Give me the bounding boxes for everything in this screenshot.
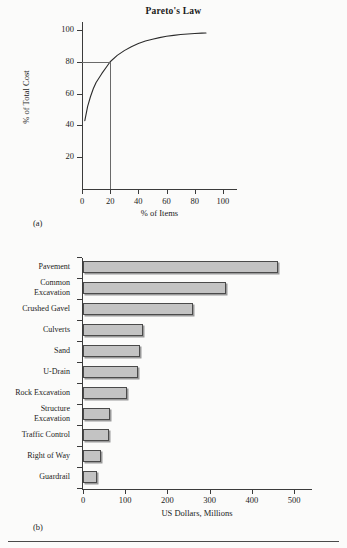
bar-x-axis-tick-label: 400 [237,495,267,505]
bar-category-label-line: Culverts [2,325,70,335]
bar-category-label: Culverts [2,325,76,335]
bar-row[interactable] [83,470,313,491]
bar-category-label: CommonExcavation [2,278,76,297]
bar-category-label-line: Guardrail [2,472,70,482]
bar-axis-tick [77,404,82,405]
panel-a-caption: (a) [33,218,42,228]
bar-category-label-line: Common [2,278,70,288]
bar-x-axis-tick [210,489,211,494]
bar-axis-tick [77,362,82,363]
bar[interactable] [83,429,109,441]
bar-category-label: Right of Way [2,451,76,461]
bar-category-label-line: Right of Way [2,451,70,461]
bar-axis-tick [77,446,82,447]
bar-x-axis-tick-label: 0 [68,495,98,505]
bar-category-label: Pavement [2,262,76,272]
bar-row[interactable] [83,386,313,407]
bar[interactable] [83,387,127,399]
bar[interactable] [83,471,97,483]
guide-line-horizontal [82,62,110,63]
bar-x-axis-tick-label: 500 [279,495,309,505]
bar-category-label: U-Drain [2,367,76,377]
bar-plot-area: PavementCommonExcavationCrushed GavelCul… [0,250,347,500]
bar-row[interactable] [83,344,313,365]
bar-axis-tick [77,488,82,489]
bar-category-label-line: Excavation [2,288,70,298]
page-bottom-rule [8,541,339,542]
bar[interactable] [83,261,278,273]
figure-page: Pareto's Law 20406080100020406080100 % o… [0,0,347,548]
bar-row[interactable] [83,323,313,344]
bar[interactable] [83,282,226,294]
bar-category-label: Rock Excavation [2,388,76,398]
guide-line-vertical [110,62,111,189]
bar-axis-tick [77,257,82,258]
bar-category-label-line: Sand [2,346,70,356]
bar-row[interactable] [83,260,313,281]
bar-category-label-line: Excavation [2,414,70,424]
bar-category-label-line: Crushed Gavel [2,304,70,314]
bar-x-axis-tick [294,489,295,494]
bar-row[interactable] [83,281,313,302]
bar-axis-tick [77,383,82,384]
bar-category-label: Traffic Control [2,430,76,440]
bar-category-label-line: Pavement [2,262,70,272]
bar-row[interactable] [83,449,313,470]
bar-category-label-line: Structure [2,404,70,414]
bar-row[interactable] [83,365,313,386]
bar-x-axis-tick [167,489,168,494]
pareto-chart-panel: Pareto's Law 20406080100020406080100 % o… [0,0,347,232]
bar-x-axis-tick [83,489,84,494]
bar-axis-tick [77,299,82,300]
bar-category-label-line: Traffic Control [2,430,70,440]
bar-chart-panel: PavementCommonExcavationCrushed GavelCul… [0,250,347,548]
bar-category-label: Crushed Gavel [2,304,76,314]
bar[interactable] [83,324,143,336]
bar-axis-tick [77,341,82,342]
bar-category-label: Guardrail [2,472,76,482]
bar-category-label: Sand [2,346,76,356]
bar-x-axis-tick [252,489,253,494]
bar-category-label-line: U-Drain [2,367,70,377]
bar[interactable] [83,303,193,315]
bar-x-axis-tick [125,489,126,494]
bar-x-axis-tick-label: 300 [195,495,225,505]
bar-category-label: StructureExcavation [2,404,76,423]
bar[interactable] [83,366,138,378]
pareto-curve-svg [0,0,347,232]
bar-axis-tick [77,320,82,321]
bar-axis-tick [77,278,82,279]
bar-row[interactable] [83,428,313,449]
bar[interactable] [83,450,101,462]
bar-x-axis-title: US Dollars, Millions [82,508,312,518]
bar-axis-tick [77,425,82,426]
y-axis-title: % of Total Cost [21,47,31,147]
bar-category-label-line: Rock Excavation [2,388,70,398]
bar-row[interactable] [83,407,313,428]
x-axis-title: % of Items [82,208,237,218]
bar-x-axis-tick-label: 200 [152,495,182,505]
bar[interactable] [83,345,140,357]
pareto-curve-line [85,33,206,121]
bar-x-axis-tick-label: 100 [110,495,140,505]
bar[interactable] [83,408,110,420]
bar-row[interactable] [83,302,313,323]
bar-axis-tick [77,467,82,468]
panel-b-caption: (b) [33,522,43,532]
